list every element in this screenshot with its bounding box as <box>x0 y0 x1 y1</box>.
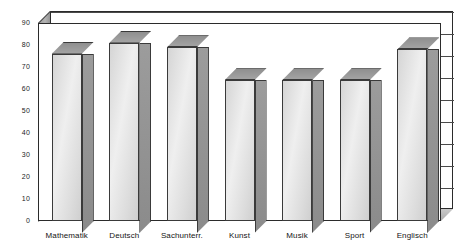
x-axis-category-label: Sachunterr. <box>153 231 211 241</box>
y-axis-tick-label: 80 <box>4 41 30 49</box>
bar-side-face <box>312 80 324 233</box>
bar-side-face <box>197 47 209 233</box>
x-axis-category-label: Mathematik <box>38 231 96 241</box>
bar-side-face <box>82 54 94 233</box>
bar-side-face <box>139 43 151 233</box>
y-axis-tick-label: 40 <box>4 129 30 137</box>
y-axis-tick-label: 50 <box>4 107 30 115</box>
x-axis-category-label: Kunst <box>211 231 269 241</box>
gridline <box>51 12 454 13</box>
bar-front-face <box>340 80 370 221</box>
bar-side-face <box>427 49 439 233</box>
y-axis-tick-label: 30 <box>4 151 30 159</box>
y-axis-tick-label: 10 <box>4 195 30 203</box>
bar <box>282 80 312 221</box>
bar-front-face <box>225 80 255 221</box>
bar-side-face <box>370 80 382 233</box>
y-axis-tick-label: 20 <box>4 173 30 181</box>
bar <box>167 47 197 221</box>
x-axis-category-label: Musik <box>268 231 326 241</box>
bar <box>340 80 370 221</box>
bar-front-face <box>109 43 139 221</box>
bar-chart: 0102030405060708090 MathematikDeutschSac… <box>0 0 457 252</box>
bar-front-face <box>282 80 312 221</box>
bar <box>397 49 427 221</box>
y-axis-tick-label: 0 <box>4 217 30 225</box>
y-axis-tick-label: 60 <box>4 85 30 93</box>
bar-side-face <box>255 80 267 233</box>
y-axis-tick-label: 90 <box>4 19 30 27</box>
bar <box>225 80 255 221</box>
bar-front-face <box>167 47 197 221</box>
x-axis-category-label: Sport <box>326 231 384 241</box>
x-axis-category-label: Englisch <box>383 231 441 241</box>
bar <box>52 54 82 221</box>
x-axis-category-label: Deutsch <box>96 231 154 241</box>
bar-front-face <box>52 54 82 221</box>
y-axis-tick-label: 70 <box>4 63 30 71</box>
bar-front-face <box>397 49 427 221</box>
bar <box>109 43 139 221</box>
